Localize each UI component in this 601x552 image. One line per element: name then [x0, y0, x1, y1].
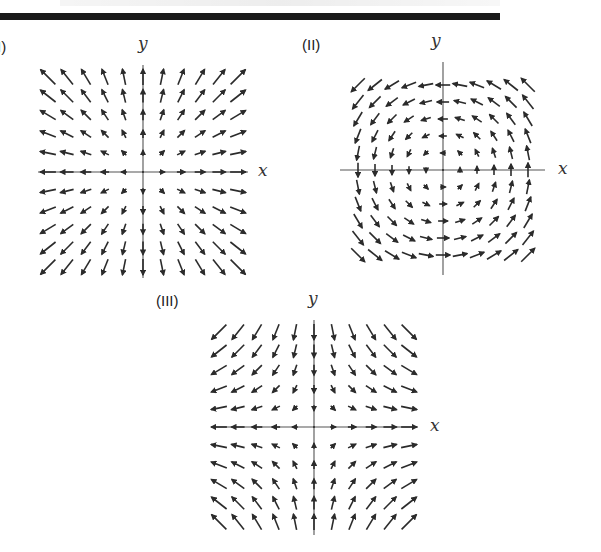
- vector-arrow: [331, 479, 335, 490]
- vector-arrow: [510, 147, 513, 159]
- vector-arrow: [40, 90, 55, 102]
- vector-arrow: [384, 365, 397, 374]
- vector-arrow: [401, 479, 416, 488]
- vector-arrow: [401, 345, 416, 357]
- panel-iii-vector-field: [211, 320, 418, 535]
- vector-arrow: [40, 151, 56, 154]
- vector-arrow: [424, 185, 428, 189]
- vector-arrow: [353, 95, 364, 109]
- vector-arrow: [374, 181, 377, 193]
- vector-arrow: [385, 81, 399, 89]
- vector-arrow: [366, 514, 375, 529]
- vector-arrow: [349, 345, 355, 358]
- vector-arrow: [178, 224, 185, 234]
- vector-arrow: [507, 215, 516, 227]
- vector-arrow: [401, 462, 417, 468]
- vector-arrow: [102, 90, 108, 103]
- vector-arrow: [406, 133, 413, 140]
- vector-arrow: [101, 151, 109, 155]
- vector-arrow: [331, 444, 336, 449]
- vector-arrow: [211, 406, 227, 409]
- vector-arrow: [160, 151, 165, 156]
- vector-arrow: [122, 89, 125, 102]
- vector-arrow: [232, 497, 244, 509]
- vector-arrow: [160, 241, 163, 254]
- vector-arrow: [213, 90, 225, 102]
- vector-arrow: [272, 461, 279, 468]
- vector-arrow: [401, 365, 416, 374]
- vector-field-canvas: [0, 0, 601, 552]
- vector-arrow: [508, 130, 514, 142]
- vector-arrow: [357, 180, 360, 194]
- vector-arrow: [366, 462, 376, 469]
- vector-arrow: [353, 231, 364, 245]
- vector-arrow: [354, 112, 362, 126]
- vector-arrow: [252, 444, 263, 448]
- vector-arrow: [101, 130, 108, 137]
- vector-arrow: [211, 444, 227, 447]
- vector-arrow: [61, 131, 74, 137]
- vector-arrow: [421, 117, 431, 120]
- vector-arrow: [472, 116, 481, 122]
- vector-arrow: [160, 189, 165, 194]
- vector-arrow: [402, 82, 416, 88]
- vector-arrow: [470, 82, 484, 88]
- vector-arrow: [293, 514, 296, 530]
- vector-arrow: [122, 189, 127, 194]
- vector-arrow: [372, 130, 378, 142]
- vector-arrow: [160, 259, 163, 275]
- vector-arrow: [453, 84, 467, 87]
- vector-arrow: [384, 462, 397, 468]
- vector-arrow: [61, 242, 73, 254]
- vector-arrow: [331, 461, 335, 469]
- vector-arrow: [195, 242, 204, 255]
- vector-arrow: [101, 189, 109, 193]
- vector-arrow: [331, 344, 334, 357]
- vector-arrow: [122, 69, 125, 85]
- vector-arrow: [525, 129, 531, 143]
- vector-arrow: [331, 406, 336, 411]
- vector-arrow: [403, 235, 415, 241]
- vector-arrow: [388, 115, 397, 124]
- vector-arrow: [366, 386, 376, 393]
- vector-arrow: [160, 110, 164, 121]
- vector-arrow: [122, 110, 126, 121]
- vector-arrow: [420, 101, 432, 104]
- vector-arrow: [348, 385, 355, 392]
- vector-arrow: [357, 146, 360, 160]
- vector-arrow: [213, 131, 226, 137]
- vector-arrow: [122, 241, 125, 254]
- vector-arrow: [424, 151, 428, 155]
- vector-arrow: [213, 224, 226, 233]
- vector-arrow: [366, 497, 375, 510]
- vector-arrow: [273, 479, 280, 489]
- vector-arrow: [40, 131, 56, 137]
- vector-arrow: [401, 497, 416, 509]
- vector-arrow: [475, 183, 479, 190]
- vector-arrow: [272, 385, 279, 392]
- vector-arrow: [232, 324, 244, 339]
- vector-arrow: [386, 98, 398, 107]
- vector-arrow: [385, 251, 399, 259]
- vector-arrow: [369, 232, 380, 243]
- vector-arrow: [178, 242, 184, 255]
- vector-arrow: [212, 515, 227, 530]
- vector-arrow: [402, 515, 417, 530]
- vector-arrow: [178, 90, 184, 103]
- vector-arrow: [388, 217, 397, 226]
- panel-ii-vector-field: [340, 62, 545, 275]
- vector-arrow: [61, 224, 74, 233]
- vector-arrow: [177, 130, 184, 137]
- vector-arrow: [524, 112, 532, 126]
- vector-arrow: [348, 461, 355, 468]
- vector-arrow: [355, 197, 361, 211]
- vector-arrow: [252, 514, 261, 529]
- vector-arrow: [510, 181, 513, 193]
- vector-arrow: [211, 479, 226, 488]
- vector-arrow: [492, 182, 495, 192]
- vector-arrow: [213, 69, 225, 84]
- vector-arrow: [61, 207, 74, 213]
- vector-arrow: [232, 365, 245, 374]
- vector-arrow: [102, 110, 109, 120]
- vector-arrow: [471, 235, 483, 241]
